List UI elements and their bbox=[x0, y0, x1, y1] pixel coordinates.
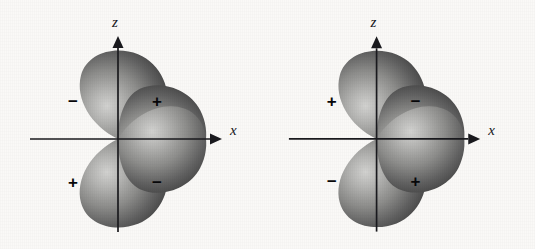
figure-canvas: x z − + + − bbox=[0, 0, 535, 249]
z-axis-arrowhead bbox=[371, 36, 382, 48]
x-axis-arrowhead bbox=[468, 133, 480, 144]
lobe-upper-right-sign: + bbox=[152, 92, 162, 111]
lobe-upper-left-sign: − bbox=[68, 92, 78, 111]
lobe-lower-right-sign: + bbox=[410, 172, 420, 191]
left-orbital-diagram: x z − + + − bbox=[0, 0, 267, 249]
lobe-lower-left-sign: − bbox=[327, 172, 337, 191]
lobe-lower-right-sign: − bbox=[152, 173, 162, 192]
right-orbital-diagram: x z + − − + bbox=[267, 0, 534, 249]
z-axis-label: z bbox=[111, 14, 118, 30]
z-axis-arrowhead bbox=[113, 36, 124, 48]
lobe-upper-left-sign: + bbox=[327, 92, 337, 111]
x-axis-label: x bbox=[487, 122, 495, 138]
x-axis-arrowhead bbox=[210, 134, 222, 145]
x-axis-label: x bbox=[229, 122, 237, 138]
z-axis-label: z bbox=[370, 14, 377, 30]
lobe-lower-left-sign: + bbox=[68, 173, 78, 192]
lobe-upper-right-sign: − bbox=[410, 92, 420, 111]
